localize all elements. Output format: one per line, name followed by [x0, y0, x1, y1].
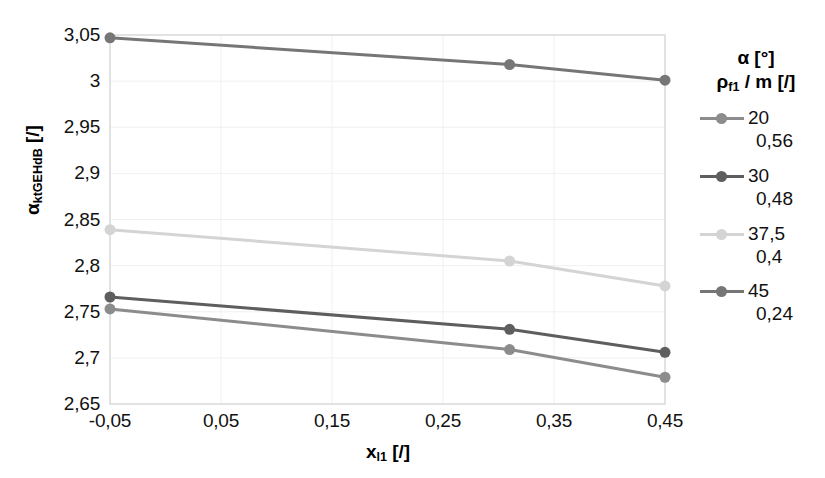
- legend-entry-sublabel: 0,4: [690, 245, 822, 269]
- legend-entry-label: 37,5: [748, 223, 785, 245]
- legend-entry-label: 45: [748, 280, 769, 302]
- y-axis-tick-label: 2,8: [38, 255, 100, 277]
- legend-swatch-icon: [700, 226, 744, 242]
- data-point-marker: [660, 347, 671, 358]
- legend-entry-list: 200,56300,4837,50,4450,24: [690, 107, 822, 326]
- legend-swatch-dot: [716, 171, 727, 182]
- x-axis-tick-label: 0,25: [425, 410, 461, 432]
- legend-swatch-icon: [700, 168, 744, 184]
- chart-plot-area: 2,652,72,752,82,852,92,9533,05 -0,050,05…: [0, 0, 700, 478]
- legend-header-subscript: f1: [728, 80, 739, 94]
- legend-entry[interactable]: 450,24: [690, 280, 822, 326]
- y-axis-title-unit: [/]: [22, 125, 43, 148]
- data-point-marker: [504, 324, 515, 335]
- x-axis-tick-label: 0,35: [536, 410, 572, 432]
- legend-entry-sublabel: 0,48: [690, 187, 822, 211]
- legend-entry[interactable]: 300,48: [690, 165, 822, 211]
- legend-header-symbol: ρ: [717, 71, 729, 92]
- legend-entry-row: 37,5: [690, 223, 822, 245]
- y-axis-tick-label: 2,9: [38, 162, 100, 184]
- x-axis-title-unit: [/]: [387, 441, 410, 462]
- legend-entry-label: 20: [748, 107, 769, 129]
- x-axis-title: xl1 [/]: [366, 441, 410, 464]
- chart-svg: [0, 0, 700, 478]
- legend-entry[interactable]: 200,56: [690, 107, 822, 153]
- legend-entry-sublabel: 0,24: [690, 302, 822, 326]
- y-axis-tick-label: 2,95: [38, 116, 100, 138]
- y-axis-title: αktGEHdB [/]: [22, 125, 45, 215]
- x-axis-tick-label: -0,05: [89, 410, 131, 432]
- y-axis-tick-label: 2,7: [38, 347, 100, 369]
- legend-header-line-2: ρf1 / m [/]: [690, 70, 822, 95]
- legend-header-rest: / m [/]: [739, 71, 795, 92]
- legend-swatch-dot: [716, 113, 727, 124]
- chart-screenshot: 2,652,72,752,82,852,92,9533,05 -0,050,05…: [0, 0, 825, 478]
- data-point-marker: [660, 280, 671, 291]
- y-axis-tick-label: 3,05: [38, 24, 100, 46]
- legend-swatch-dot: [716, 229, 727, 240]
- y-axis-tick-label: 3: [38, 70, 100, 92]
- data-point-marker: [105, 224, 116, 235]
- legend-entry-row: 45: [690, 280, 822, 302]
- x-axis-tick-label: 0,05: [203, 410, 239, 432]
- y-axis-title-symbol: α: [22, 203, 43, 215]
- data-point-marker: [504, 256, 515, 267]
- data-point-marker: [504, 344, 515, 355]
- data-point-marker: [660, 372, 671, 383]
- legend-entry[interactable]: 37,50,4: [690, 223, 822, 269]
- x-axis-tick-label: 0,15: [314, 410, 350, 432]
- data-point-marker: [504, 59, 515, 70]
- data-point-marker: [105, 291, 116, 302]
- legend-entry-sublabel: 0,56: [690, 129, 822, 153]
- x-axis-title-symbol: x: [366, 441, 377, 462]
- legend-swatch-icon: [700, 283, 744, 299]
- legend-swatch-dot: [716, 286, 727, 297]
- y-axis-tick-label: 2,85: [38, 209, 100, 231]
- chart-legend: α [°] ρf1 / m [/] 200,56300,4837,50,4450…: [690, 46, 822, 326]
- legend-header-line-1: α [°]: [690, 46, 822, 70]
- x-axis-title-subscript: l1: [376, 450, 386, 464]
- data-point-marker: [660, 75, 671, 86]
- legend-swatch-icon: [700, 110, 744, 126]
- x-axis-tick-label: 0,45: [647, 410, 683, 432]
- data-point-marker: [105, 32, 116, 43]
- y-axis-tick-label: 2,75: [38, 301, 100, 323]
- legend-entry-label: 30: [748, 165, 769, 187]
- data-point-marker: [105, 303, 116, 314]
- y-axis-title-subscript: ktGEHdB: [31, 148, 45, 203]
- legend-entry-row: 20: [690, 107, 822, 129]
- legend-entry-row: 30: [690, 165, 822, 187]
